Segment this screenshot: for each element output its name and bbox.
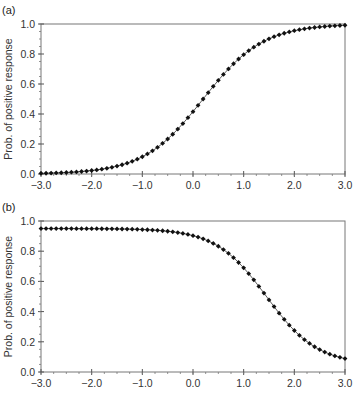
series-markers <box>39 226 348 361</box>
series-line <box>41 25 345 173</box>
y-axis-label: Prob. of positive response <box>2 236 14 358</box>
y-axis-label: Prob. of positive response <box>2 38 14 160</box>
series-markers <box>39 23 348 176</box>
chart-panel-b: (b) 0.00.20.40.60.81.0−3.0−2.0−1.00.01.0… <box>0 196 357 402</box>
y-tick-label: 0.4 <box>20 306 35 318</box>
x-tick-label: −1.0 <box>132 377 153 389</box>
y-tick-label: 0.4 <box>20 108 35 120</box>
chart-a-plot: 0.00.20.40.60.81.0−3.0−2.0−1.00.01.02.03… <box>0 0 357 196</box>
y-tick-label: 0.8 <box>20 48 35 60</box>
x-tick-label: −2.0 <box>81 377 102 389</box>
x-tick-label: −1.0 <box>132 179 153 191</box>
x-tick-label: −2.0 <box>81 179 102 191</box>
y-tick-label: 0.6 <box>20 275 35 287</box>
x-tick-label: 2.0 <box>287 179 302 191</box>
y-tick-label: 0.6 <box>20 78 35 90</box>
chart-b-plot: 0.00.20.40.60.81.0−3.0−2.0−1.00.01.02.03… <box>0 196 357 402</box>
x-tick-label: −3.0 <box>31 377 52 389</box>
y-tick-label: 0.2 <box>20 138 35 150</box>
y-tick-label: 0.8 <box>20 245 35 257</box>
x-tick-label: 1.0 <box>236 377 251 389</box>
x-tick-label: 1.0 <box>236 179 251 191</box>
x-tick-label: −3.0 <box>31 179 52 191</box>
plot-frame <box>41 221 345 372</box>
y-tick-label: 1.0 <box>20 18 35 30</box>
x-tick-label: 0.0 <box>186 377 201 389</box>
chart-panel-a: (a) 0.00.20.40.60.81.0−3.0−2.0−1.00.01.0… <box>0 0 357 196</box>
y-tick-label: 1.0 <box>20 215 35 227</box>
x-tick-label: 2.0 <box>287 377 302 389</box>
plot-frame <box>41 24 345 174</box>
x-tick-label: 3.0 <box>338 377 353 389</box>
y-tick-label: 0.2 <box>20 336 35 348</box>
x-tick-label: 3.0 <box>338 179 353 191</box>
series-line <box>41 229 345 359</box>
x-tick-label: 0.0 <box>186 179 201 191</box>
